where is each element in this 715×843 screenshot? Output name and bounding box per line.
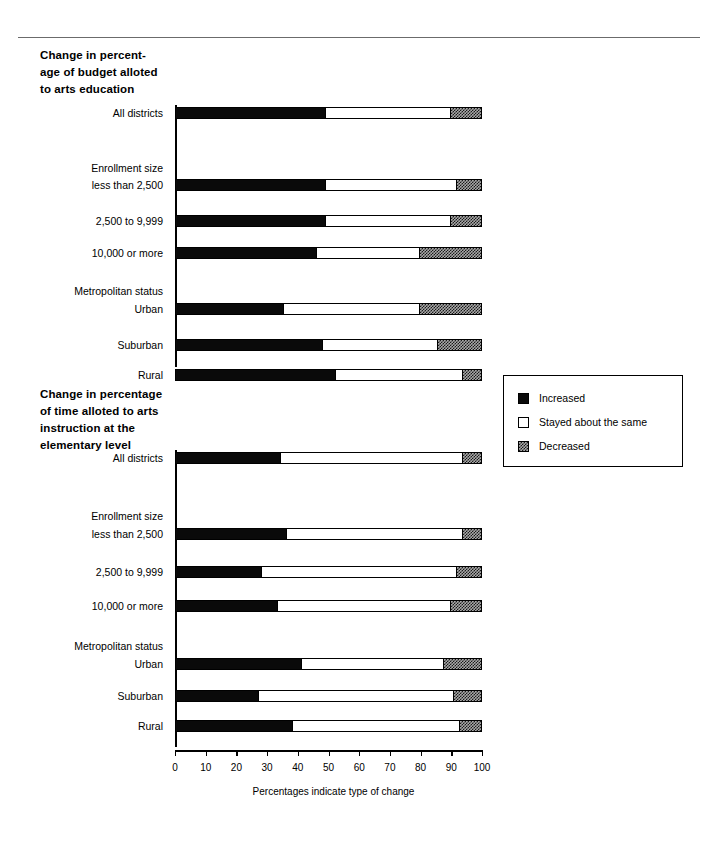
legend-label-decreased: Decreased [539, 440, 590, 452]
stacked-bar [175, 658, 482, 670]
x-axis-tick [390, 750, 391, 756]
legend-item-stayed: Stayed about the same [518, 410, 682, 434]
row-label: Suburban [0, 688, 163, 704]
chart-row: Metropolitan status [0, 283, 715, 299]
bar-segment-increased [176, 691, 258, 701]
x-axis-tick [267, 750, 268, 756]
chart-1-title: Change in percent- age of budget alloted… [40, 47, 220, 98]
stacked-bar [175, 720, 482, 732]
bar-segment-stayed [301, 659, 444, 669]
bar-segment-increased [176, 248, 316, 258]
chart-row: 2,500 to 9,999 [0, 213, 715, 229]
bar-segment-stayed [325, 216, 450, 226]
chart-row: All districts [0, 105, 715, 121]
chart-row: Rural [0, 718, 715, 734]
x-axis-tick-label: 80 [415, 762, 426, 773]
black-square-swatch-icon [518, 393, 529, 404]
chart-row: 10,000 or more [0, 598, 715, 614]
x-axis-tick-label: 20 [231, 762, 242, 773]
row-label: Rural [0, 367, 163, 383]
chart-row: Urban [0, 301, 715, 317]
stacked-bar [175, 528, 482, 540]
stacked-bar [175, 369, 482, 381]
row-label: All districts [0, 450, 163, 466]
chart-row: 2,500 to 9,999 [0, 564, 715, 580]
bar-segment-decreased [457, 567, 481, 577]
row-group-header: Enrollment size [0, 508, 163, 524]
figure-page: Change in percent- age of budget alloted… [0, 0, 715, 843]
x-axis-tick-label: 70 [384, 762, 395, 773]
bar-segment-decreased [457, 180, 481, 190]
chart-row: Metropolitan status [0, 638, 715, 654]
row-label: Suburban [0, 337, 163, 353]
chart-row: Suburban [0, 688, 715, 704]
bar-segment-increased [176, 216, 325, 226]
checkered-square-swatch-icon [518, 441, 529, 452]
row-group-header: Metropolitan status [0, 638, 163, 654]
chart-1-y-axis-line [175, 105, 177, 367]
x-axis-tick-label: 50 [323, 762, 334, 773]
bar-segment-increased [176, 340, 322, 350]
x-axis-tick [451, 750, 452, 756]
bar-segment-decreased [451, 216, 481, 226]
chart-row: Enrollment size [0, 160, 715, 176]
bar-segment-decreased [463, 453, 481, 463]
chart-row: Suburban [0, 337, 715, 353]
x-axis-tick-label: 90 [446, 762, 457, 773]
x-axis-tick [482, 750, 483, 756]
bar-segment-increased [176, 370, 335, 380]
x-axis-tick-label: 10 [200, 762, 211, 773]
bar-segment-stayed [280, 453, 463, 463]
bar-segment-decreased [451, 108, 481, 118]
bar-segment-stayed [261, 567, 456, 577]
stacked-bar [175, 107, 482, 119]
row-label: Urban [0, 301, 163, 317]
bar-segment-decreased [454, 691, 481, 701]
bar-segment-increased [176, 601, 277, 611]
row-label: 10,000 or more [0, 245, 163, 261]
bar-segment-decreased [420, 248, 481, 258]
bar-segment-decreased [463, 529, 481, 539]
bar-segment-increased [176, 453, 280, 463]
bar-segment-stayed [322, 340, 438, 350]
row-label: 10,000 or more [0, 598, 163, 614]
row-group-header: Enrollment size [0, 160, 163, 176]
white-square-swatch-icon [518, 417, 529, 428]
chart-row: Urban [0, 656, 715, 672]
x-axis-tick [329, 750, 330, 756]
x-axis-tick-label: 40 [292, 762, 303, 773]
top-rule-divider [18, 37, 700, 38]
x-axis-tick [298, 750, 299, 756]
bar-segment-increased [176, 180, 325, 190]
bar-segment-stayed [292, 721, 460, 731]
row-label: All districts [0, 105, 163, 121]
bar-segment-stayed [316, 248, 420, 258]
stacked-bar [175, 600, 482, 612]
x-axis-tick-label: 100 [474, 762, 491, 773]
bar-segment-stayed [325, 180, 456, 190]
chart-2-title: Change in percentage of time alloted to … [40, 386, 220, 454]
bar-segment-stayed [325, 108, 450, 118]
x-axis-tick [236, 750, 237, 756]
x-axis-caption-text: Percentages indicate type of change [253, 786, 415, 797]
chart-row: less than 2,500 [0, 526, 715, 542]
row-label: less than 2,500 [0, 177, 163, 193]
chart-budget-allotted: All districtsEnrollment sizeless than 2,… [0, 105, 715, 370]
bar-segment-increased [176, 721, 292, 731]
x-axis-tick-label: 0 [172, 762, 178, 773]
chart-row: Enrollment size [0, 508, 715, 524]
bar-segment-increased [176, 659, 301, 669]
bar-segment-decreased [420, 304, 481, 314]
chart-row: less than 2,500 [0, 177, 715, 193]
row-label: 2,500 to 9,999 [0, 564, 163, 580]
legend-item-increased: Increased [518, 386, 682, 410]
bar-segment-stayed [335, 370, 463, 380]
bar-segment-decreased [463, 370, 481, 380]
bar-segment-decreased [444, 659, 481, 669]
legend-label-stayed: Stayed about the same [539, 416, 647, 428]
bar-segment-stayed [283, 304, 420, 314]
bar-segment-stayed [277, 601, 451, 611]
stacked-bar [175, 303, 482, 315]
bar-segment-increased [176, 304, 283, 314]
x-axis-caption: Percentages indicate type of change [0, 786, 715, 797]
